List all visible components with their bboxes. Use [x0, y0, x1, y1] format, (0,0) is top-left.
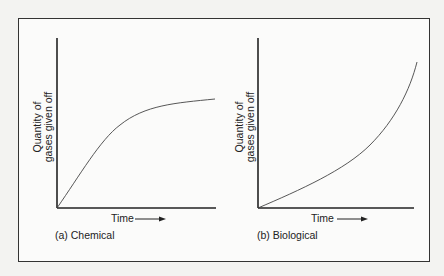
chart-a-ylabel: Quantity of gases given off	[32, 87, 54, 167]
chart-b-ylabel: Quantity of gases given off	[234, 87, 256, 167]
chart-a-caption: (a) Chemical	[55, 229, 115, 241]
chart-b-xlabel: Time	[311, 212, 334, 224]
chart-a-curve	[57, 99, 215, 208]
chart-b-caption: (b) Biological	[257, 229, 318, 241]
chart-a-ylabel-line2: gases given off	[43, 87, 54, 167]
chart-a-xlabel: Time	[111, 212, 134, 224]
chart-b-curve	[258, 62, 417, 208]
chart-b-ylabel-line2: gases given off	[245, 87, 256, 167]
chart-b-axes	[258, 38, 414, 208]
chart-a-time-arrow-icon	[135, 217, 166, 222]
chart-a-axes	[57, 38, 216, 208]
chart-b-time-arrow-icon	[337, 217, 368, 222]
